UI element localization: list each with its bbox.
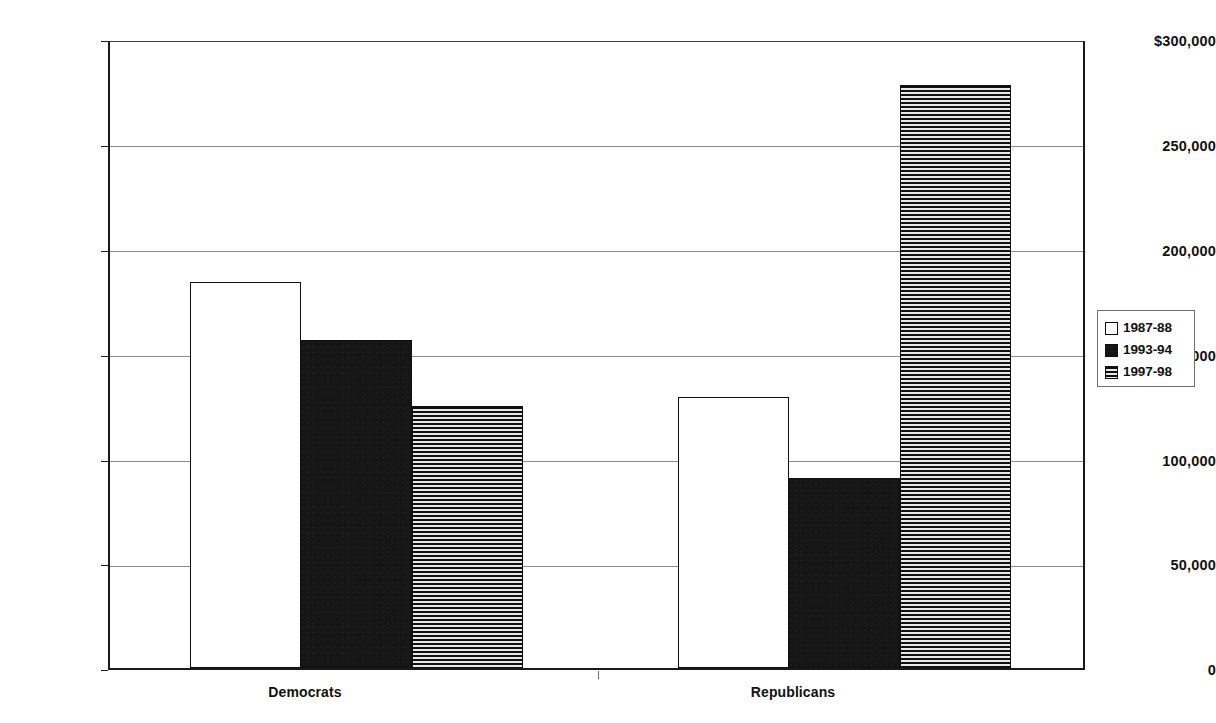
- y-axis-tick-100000: [101, 461, 108, 462]
- y-axis-label-300000: $300,000: [1120, 34, 1216, 49]
- category-divider-tick: [598, 671, 599, 679]
- x-axis-label-republicans: Republicans: [733, 684, 853, 700]
- plot-area: [108, 41, 1085, 670]
- bar-democrats-1993-94: [301, 340, 412, 668]
- legend-label-1997-98: 1997-98: [1123, 365, 1172, 379]
- bar-democrats-1987-88: [190, 282, 301, 668]
- chart-legend: 1987-88 1993-94 1997-98: [1097, 310, 1195, 387]
- legend-item-1997-98: 1997-98: [1105, 361, 1189, 383]
- y-axis-label-250000: 250,000: [1120, 139, 1216, 154]
- x-axis-label-democrats: Democrats: [245, 684, 365, 700]
- legend-label-1987-88: 1987-88: [1123, 321, 1172, 335]
- legend-item-1987-88: 1987-88: [1105, 317, 1189, 339]
- y-axis-tick-200000: [101, 251, 108, 252]
- bar-republicans-1987-88: [678, 397, 789, 668]
- y-axis-label-0: 0: [1120, 663, 1216, 678]
- bar-republicans-1997-98: [900, 85, 1011, 668]
- legend-swatch-solid-black-icon: [1105, 344, 1118, 357]
- y-axis-tick-50000: [101, 565, 108, 566]
- legend-item-1993-94: 1993-94: [1105, 339, 1189, 361]
- y-axis-tick-0: [101, 670, 108, 671]
- bar-democrats-1997-98: [412, 406, 523, 668]
- y-axis-tick-300000: [101, 41, 108, 42]
- legend-label-1993-94: 1993-94: [1123, 343, 1172, 357]
- y-axis-tick-150000: [101, 356, 108, 357]
- y-axis-label-200000: 200,000: [1120, 244, 1216, 259]
- y-axis-label-50000: 50,000: [1120, 558, 1216, 573]
- bar-republicans-1993-94: [789, 478, 900, 668]
- bar-chart: $300,000 250,000 200,000 150,000 100,000…: [0, 0, 1216, 723]
- y-axis-tick-250000: [101, 146, 108, 147]
- legend-swatch-horizontal-stripes-icon: [1105, 366, 1118, 379]
- legend-swatch-open-white-icon: [1105, 322, 1118, 335]
- y-axis-label-100000: 100,000: [1120, 454, 1216, 469]
